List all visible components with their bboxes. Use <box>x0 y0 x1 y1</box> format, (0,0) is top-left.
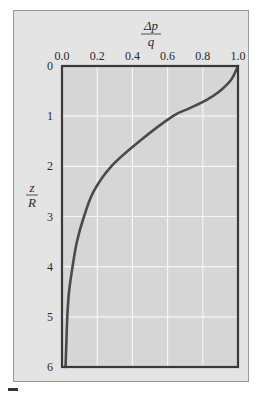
x-tick-label: 1.0 <box>231 49 246 63</box>
y-tick-label: 1 <box>47 109 53 123</box>
x-tick-label: 0.4 <box>125 49 140 63</box>
x-tick-label: 0.6 <box>160 49 175 63</box>
x-axis-label-numerator: Δp <box>143 18 159 33</box>
x-tick-labels: 0.00.20.40.60.81.0 <box>55 49 246 63</box>
y-tick-label: 4 <box>47 260 53 274</box>
caption-marker <box>8 388 18 391</box>
x-axis-label-denominator: q <box>148 34 155 49</box>
y-tick-label: 6 <box>47 360 53 374</box>
x-tick-label: 0.2 <box>90 49 105 63</box>
y-axis-label-numerator: z <box>28 180 34 195</box>
y-axis-label-denominator: R <box>27 195 36 210</box>
y-tick-label: 0 <box>47 59 53 73</box>
x-tick-label: 0.8 <box>195 49 210 63</box>
y-tick-label: 2 <box>47 159 53 173</box>
y-tick-labels: 0123456 <box>47 59 53 374</box>
chart: 0.00.20.40.60.81.0 0123456 Δp q z R <box>0 0 263 395</box>
y-tick-label: 3 <box>47 210 53 224</box>
x-tick-label: 0.0 <box>55 49 70 63</box>
y-tick-label: 5 <box>47 310 53 324</box>
